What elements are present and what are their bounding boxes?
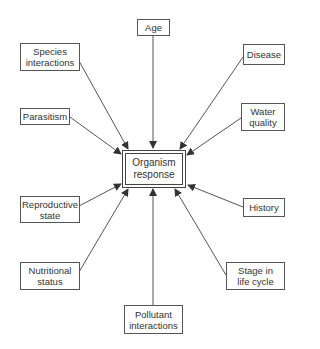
factor-label: Reproductive state [22, 199, 78, 221]
center-inner-frame: Organism response [125, 153, 183, 185]
arrow-stage-in-life-cycle [175, 189, 226, 275]
factor-species-interactions: Species interactions [20, 43, 80, 71]
factor-nutritional-status: Nutritional status [20, 262, 80, 290]
arrow-disease [180, 57, 243, 149]
factor-age: Age [137, 19, 170, 36]
factor-label: Water quality [249, 106, 276, 128]
factor-label: Nutritional status [29, 265, 72, 287]
arrow-history [188, 185, 243, 207]
factor-label: Species interactions [26, 46, 75, 68]
factor-parasitism: Parasitism [20, 108, 70, 125]
arrow-species-interactions [79, 61, 128, 149]
arrow-water-quality [187, 118, 241, 155]
arrow-reproductive-state [79, 184, 121, 206]
factor-label: Disease [247, 49, 281, 60]
factor-label: Pollutant interactions [129, 309, 178, 331]
factor-label: Parasitism [23, 111, 67, 122]
factor-history: History [243, 198, 285, 217]
center-label: Organism response [132, 157, 175, 181]
factor-label: History [249, 202, 279, 213]
arrow-nutritional-status [79, 189, 128, 272]
factor-label: Stage in life cycle [237, 265, 273, 287]
factor-stage-in-life-cycle: Stage in life cycle [226, 262, 285, 290]
factor-water-quality: Water quality [241, 103, 285, 131]
factor-label: Age [145, 22, 162, 33]
factor-reproductive-state: Reproductive state [20, 196, 80, 223]
factor-pollutant-interactions: Pollutant interactions [124, 305, 183, 334]
center-organism-response: Organism response [122, 150, 186, 188]
factor-disease: Disease [243, 44, 285, 65]
